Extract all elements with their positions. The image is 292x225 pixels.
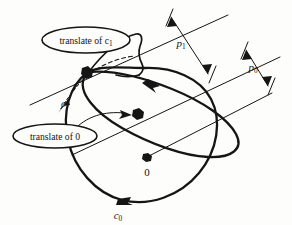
label-c0: c0 <box>114 209 123 223</box>
figure-root: p1 p0 c0 <box>0 0 292 225</box>
label-c: c <box>61 97 66 109</box>
callout-translate-of-0[interactable]: translate of 0 <box>13 124 97 148</box>
callout-oval-0-label: translate of 0 <box>30 131 80 142</box>
p0-arrowhead-top <box>242 50 252 60</box>
label-origin: 0 <box>144 166 150 178</box>
origin-point <box>142 153 152 162</box>
callout-translate-of-c1[interactable]: translate of c1 <box>42 27 130 53</box>
p0-arrowhead-bottom <box>262 76 272 86</box>
diagram-canvas: p1 p0 c0 <box>0 0 292 225</box>
upper-region-dashed-chord <box>90 56 134 73</box>
p1-arrowhead-top <box>167 17 177 27</box>
curve-translate-arrowhead <box>142 79 160 93</box>
pointer-translate-of-0-arrowhead <box>119 110 132 119</box>
distance-p0-group: p0 <box>241 42 275 95</box>
support-line-upper <box>30 15 228 105</box>
label-p0: p0 <box>247 61 258 75</box>
label-p1: p1 <box>175 37 186 51</box>
tangency-point-lower <box>132 108 144 120</box>
p1-arrowhead-bottom <box>202 64 212 74</box>
curve-c0-group: c0 <box>66 67 217 223</box>
